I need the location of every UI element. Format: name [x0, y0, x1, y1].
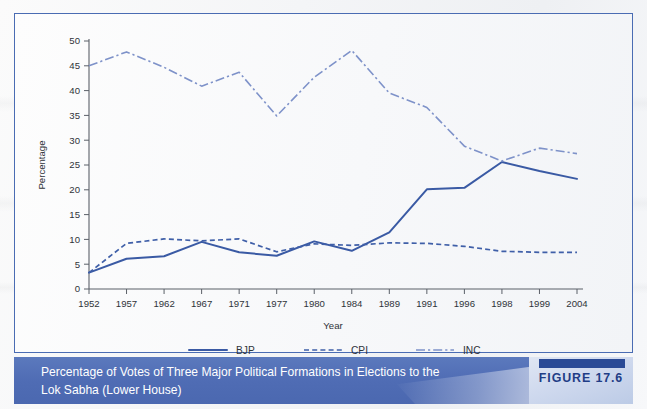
x-tick-label: 2004	[566, 298, 588, 309]
y-tick-label: 15	[69, 209, 80, 220]
x-tick-label: 1991	[416, 298, 437, 309]
x-tick-label: 1967	[191, 298, 212, 309]
x-axis-title: Year	[323, 320, 343, 331]
figure-caption-text: Percentage of Votes of Three Major Polit…	[41, 364, 501, 399]
legend-label-cpi: CPI	[351, 345, 368, 354]
chart-canvas: 05101520253035404550 1952195719621967197…	[15, 14, 634, 354]
x-tick-label: 1999	[529, 298, 550, 309]
legend-label-inc: INC	[463, 345, 481, 354]
chart-series-group	[89, 50, 577, 272]
y-tick-label: 10	[69, 234, 80, 245]
y-tick-labels: 05101520253035404550	[69, 35, 80, 294]
figure-frame: 05101520253035404550 1952195719621967197…	[14, 13, 633, 353]
x-tick-label: 1998	[491, 298, 512, 309]
y-tick-label: 5	[75, 259, 80, 270]
y-tick-label: 30	[69, 135, 80, 146]
page-background: 05101520253035404550 1952195719621967197…	[0, 0, 647, 409]
series-line-inc	[89, 50, 577, 161]
y-tick-label: 45	[69, 60, 80, 71]
x-tick-label: 1971	[228, 298, 249, 309]
y-tick-label: 50	[69, 35, 80, 46]
y-tick-label: 40	[69, 85, 80, 96]
x-tick-label: 1957	[116, 298, 137, 309]
x-tick-label: 1980	[304, 298, 325, 309]
y-tick-label: 35	[69, 110, 80, 121]
y-tick-label: 25	[69, 159, 80, 170]
caption-line-2: Lok Sabha (Lower House)	[41, 382, 501, 400]
figure-tag-accent-bar	[539, 359, 625, 368]
x-tick-label: 1962	[153, 298, 174, 309]
legend-label-bjp: BJP	[236, 345, 255, 354]
x-tick-label: 1977	[266, 298, 287, 309]
figure-tag-panel: FIGURE 17.6	[529, 357, 633, 404]
x-tick-label: 1984	[341, 298, 363, 309]
y-tick-label: 20	[69, 184, 80, 195]
chart-legend: BJPCPIINC	[189, 345, 481, 354]
y-tick-label: 0	[75, 283, 80, 294]
y-axis-title: Percentage	[36, 140, 47, 189]
line-chart: 05101520253035404550 1952195719621967197…	[15, 14, 634, 354]
x-tick-label: 1989	[379, 298, 400, 309]
figure-tag-label: FIGURE 17.6	[538, 371, 624, 385]
x-tick-label: 1996	[454, 298, 475, 309]
series-line-bjp	[89, 162, 577, 273]
x-tick-label: 1952	[78, 298, 99, 309]
x-tick-labels: 1952195719621967197119771980198419891991…	[78, 298, 588, 309]
figure-caption-bar: FIGURE 17.6 Percentage of Votes of Three…	[14, 357, 633, 404]
caption-line-1: Percentage of Votes of Three Major Polit…	[41, 364, 501, 382]
